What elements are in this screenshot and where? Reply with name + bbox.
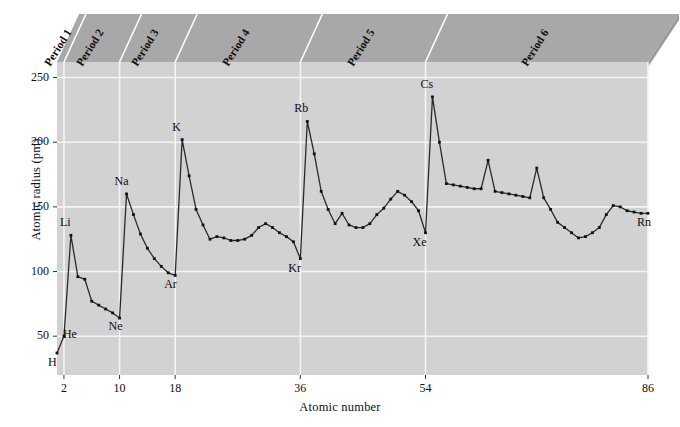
y-tick-label: 50: [15, 328, 49, 343]
element-label-h: H: [48, 355, 57, 370]
chart-canvas: [0, 0, 680, 427]
plot-background: [57, 62, 648, 375]
element-label-kr: Kr: [288, 261, 301, 276]
element-label-rb: Rb: [294, 101, 308, 116]
atomic-radius-chart: Atomic radius (pm) Atomic number 5010015…: [0, 0, 680, 427]
element-label-na: Na: [115, 174, 129, 189]
x-tick-label: 36: [285, 381, 315, 396]
y-tick-label: 200: [15, 134, 49, 149]
x-tick-label: 2: [49, 381, 79, 396]
y-tick-label: 100: [15, 264, 49, 279]
element-label-rn: Rn: [637, 215, 651, 230]
element-label-ar: Ar: [164, 277, 177, 292]
x-tick-label: 18: [160, 381, 190, 396]
element-label-xe: Xe: [413, 235, 427, 250]
y-tick-label: 150: [15, 199, 49, 214]
element-label-li: Li: [60, 215, 71, 230]
element-label-k: K: [172, 120, 181, 135]
x-tick-label: 86: [633, 381, 663, 396]
x-tick-label: 10: [105, 381, 135, 396]
x-axis-title: Atomic number: [255, 400, 425, 415]
element-label-he: He: [63, 327, 77, 342]
element-label-cs: Cs: [420, 77, 433, 92]
y-tick-label: 250: [15, 70, 49, 85]
element-label-ne: Ne: [109, 319, 123, 334]
x-tick-label: 54: [411, 381, 441, 396]
